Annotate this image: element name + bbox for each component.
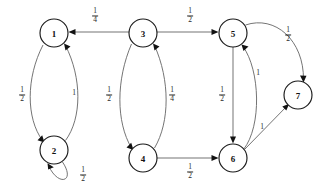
edge-4-to-3: [153, 44, 166, 149]
edge-weight-5-6: 12: [219, 86, 225, 103]
node-2[interactable]: 2: [40, 136, 68, 164]
node-7[interactable]: 7: [284, 81, 312, 109]
edge-weight-3-1-denominator: 4: [92, 17, 98, 25]
edge-weight-3-4: 12: [106, 86, 112, 103]
graph-canvas: 1 2 3 4 5 6 7: [0, 0, 326, 192]
edge-weight-4-3: 14: [169, 86, 175, 103]
edge-5-to-6: [230, 47, 236, 144]
node-3[interactable]: 3: [129, 19, 157, 47]
edge-weight-3-5: 12: [187, 7, 193, 24]
node-1[interactable]: 1: [40, 19, 68, 47]
edge-weight-4-6-denominator: 2: [187, 173, 193, 181]
edge-weight-2-1: 1: [72, 89, 76, 97]
edge-weight-4-6: 12: [187, 163, 193, 180]
node-5[interactable]: 5: [219, 19, 247, 47]
edge-weight-3-1: 14: [92, 7, 98, 24]
edge-weight-2-1-value: 1: [72, 89, 76, 97]
edge-2-self-loop: [48, 162, 68, 179]
edge-3-to-5: [157, 29, 219, 35]
node-6[interactable]: 6: [219, 144, 247, 172]
edge-weight-5-7-denominator: 2: [285, 36, 291, 44]
edge-weight-1-2-denominator: 2: [19, 96, 25, 104]
edge-weight-6-5-value: 1: [256, 69, 260, 77]
edge-6-to-5: [242, 45, 257, 150]
edge-6-to-7: [245, 104, 289, 149]
graph-diagram: 1 2 3 4 5 6 7 14 12: [0, 0, 326, 192]
edge-weight-5-6-denominator: 2: [219, 96, 225, 104]
edge-weight-5-7: 12: [285, 26, 291, 43]
edge-5-to-7: [246, 23, 307, 83]
edge-4-to-6: [157, 155, 219, 161]
edge-weight-6-5: 1: [256, 69, 260, 77]
edge-weight-2-self: 12: [80, 166, 86, 183]
edge-weight-6-7-value: 1: [260, 123, 264, 131]
edge-weight-6-7: 1: [260, 123, 264, 131]
edge-3-to-1: [69, 29, 130, 35]
edge-weight-2-self-denominator: 2: [80, 176, 86, 184]
edge-weight-3-5-denominator: 2: [187, 17, 193, 25]
node-4[interactable]: 4: [129, 144, 157, 172]
edge-1-to-2: [30, 45, 44, 143]
edge-3-to-4: [120, 44, 134, 150]
edge-weight-4-3-denominator: 4: [169, 96, 175, 104]
edge-weight-1-2: 12: [19, 86, 25, 103]
edge-weight-3-4-denominator: 2: [106, 96, 112, 104]
